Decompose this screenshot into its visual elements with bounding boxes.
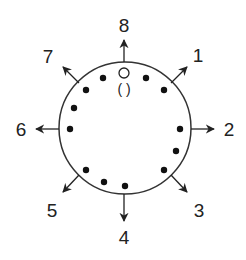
dot xyxy=(101,179,107,185)
direction-label-3: 3 xyxy=(194,200,205,221)
arrow-3-icon xyxy=(171,175,187,192)
direction-labels: 12345678 xyxy=(16,15,235,248)
dot xyxy=(100,75,106,81)
dot xyxy=(143,75,149,81)
arrow-7-icon xyxy=(63,67,79,83)
paren-marker: ( ) xyxy=(117,81,130,97)
direction-diagram: 12345678 ( ) xyxy=(0,0,246,260)
direction-label-2: 2 xyxy=(224,119,235,140)
dot xyxy=(161,167,167,173)
dot xyxy=(173,148,179,154)
arrow-5-icon xyxy=(63,175,79,192)
dot xyxy=(67,126,73,132)
dot xyxy=(71,105,77,111)
direction-label-8: 8 xyxy=(119,15,130,36)
direction-label-6: 6 xyxy=(16,119,27,140)
dot xyxy=(161,87,167,93)
direction-label-7: 7 xyxy=(43,46,54,67)
dot xyxy=(122,183,128,189)
open-dot xyxy=(119,68,129,78)
dot xyxy=(83,87,89,93)
dot xyxy=(177,126,183,132)
direction-label-5: 5 xyxy=(47,200,58,221)
arrow-1-icon xyxy=(171,67,187,83)
dot xyxy=(83,167,89,173)
direction-label-4: 4 xyxy=(119,227,130,248)
direction-label-1: 1 xyxy=(193,45,204,66)
